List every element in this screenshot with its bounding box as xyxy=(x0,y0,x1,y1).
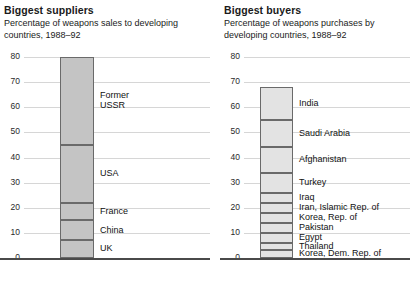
chart-buyers: 01020304050607080 IndiaSaudi ArabiaAfgha… xyxy=(220,50,413,272)
segment-label-saudi-arabia: Saudi Arabia xyxy=(299,128,350,139)
y-tick-label-60: 60 xyxy=(220,101,240,111)
bar-segment xyxy=(261,193,292,203)
gridline-50 xyxy=(24,132,210,133)
bar-segment xyxy=(261,203,292,213)
chart-suppliers: 01020304050607080 FormerUSSRUSAFranceChi… xyxy=(0,50,218,272)
gridline-70 xyxy=(24,82,210,83)
y-tick-label-10: 10 xyxy=(0,227,20,237)
y-tick-label-20: 20 xyxy=(220,202,240,212)
segment-label-line: Saudi Arabia xyxy=(299,128,350,139)
segment-label-turkey: Turkey xyxy=(299,177,326,188)
segment-label-line: UK xyxy=(100,243,113,254)
y-tick-label-30: 30 xyxy=(220,177,240,187)
bar-segment xyxy=(61,220,93,240)
bar-segment xyxy=(261,120,292,148)
bar-segment xyxy=(61,145,93,203)
bar-segment xyxy=(61,57,93,145)
segment-label-china: China xyxy=(100,225,124,236)
segment-label-uk: UK xyxy=(100,243,113,254)
y-tick-label-0: 0 xyxy=(0,252,20,262)
segment-label-line: Turkey xyxy=(299,177,326,188)
y-tick-label-40: 40 xyxy=(220,152,240,162)
bar-segment xyxy=(261,223,292,233)
segment-label-line: Pakistan xyxy=(299,222,334,233)
bar-segment xyxy=(261,147,292,172)
bar-segment xyxy=(61,203,93,221)
segment-label-line: Former xyxy=(100,90,129,101)
y-tick-label-10: 10 xyxy=(220,227,240,237)
segment-label-line: Iran, Islamic Rep. of xyxy=(299,202,379,213)
bar-segment xyxy=(261,243,292,251)
bar-segment xyxy=(261,173,292,193)
gridline-70 xyxy=(244,82,410,83)
y-tick-label-30: 30 xyxy=(0,177,20,187)
y-tick-label-20: 20 xyxy=(0,202,20,212)
y-tick-label-70: 70 xyxy=(0,76,20,86)
segment-label-india: India xyxy=(299,98,319,109)
y-tick-label-50: 50 xyxy=(220,126,240,136)
segment-label-afghanistan: Afghanistan xyxy=(299,154,347,165)
y-tick-label-50: 50 xyxy=(0,126,20,136)
gridline-80 xyxy=(24,57,210,58)
segment-label-usa: USA xyxy=(100,168,119,179)
bar-segment xyxy=(261,87,292,120)
bar-segment xyxy=(261,233,292,243)
segment-label-pakistan: Pakistan xyxy=(299,222,334,233)
segment-label-korea-rep-of: Korea, Rep. of xyxy=(299,212,357,223)
segment-label-line: China xyxy=(100,225,124,236)
segment-label-iran-islamic-rep-of: Iran, Islamic Rep. of xyxy=(299,202,379,213)
segment-label-line: USA xyxy=(100,168,119,179)
stacked-bar-buyers xyxy=(260,87,293,258)
panel-suppliers-title: Biggest suppliers xyxy=(4,4,94,16)
gridline-40 xyxy=(24,158,210,159)
bar-segment xyxy=(261,250,292,258)
y-tick-label-0: 0 xyxy=(220,252,240,262)
bar-segment xyxy=(261,213,292,223)
panel-buyers-title: Biggest buyers xyxy=(224,4,301,16)
segment-label-former-ussr: FormerUSSR xyxy=(100,90,129,111)
y-tick-label-40: 40 xyxy=(0,152,20,162)
segment-label-korea-dem-rep-of: Korea, Dem. Rep. of xyxy=(299,248,381,259)
segment-label-line: USSR xyxy=(100,100,129,111)
gridline-30 xyxy=(24,183,210,184)
segment-label-line: Iraq xyxy=(299,192,315,203)
x-axis-baseline-suppliers xyxy=(0,258,210,260)
segment-label-line: France xyxy=(100,206,128,217)
panel-buyers: Biggest buyers Percentage of weapons pur… xyxy=(220,0,413,288)
panel-suppliers-subtitle: Percentage of weapons sales to developin… xyxy=(4,18,189,41)
segment-label-line: India xyxy=(299,98,319,109)
bar-segment xyxy=(61,240,93,258)
segment-label-line: Korea, Rep. of xyxy=(299,212,357,223)
y-tick-label-80: 80 xyxy=(220,51,240,61)
segment-label-iraq: Iraq xyxy=(299,192,315,203)
stacked-bar-suppliers xyxy=(60,57,94,258)
segment-label-france: France xyxy=(100,206,128,217)
segment-label-line: Afghanistan xyxy=(299,154,347,165)
y-tick-label-70: 70 xyxy=(220,76,240,86)
panel-buyers-subtitle: Percentage of weapons purchases by devel… xyxy=(224,18,413,41)
segment-label-line: Korea, Dem. Rep. of xyxy=(299,248,381,259)
gridline-80 xyxy=(244,57,410,58)
y-tick-label-80: 80 xyxy=(0,51,20,61)
panel-suppliers: Biggest suppliers Percentage of weapons … xyxy=(0,0,218,288)
y-tick-label-60: 60 xyxy=(0,101,20,111)
